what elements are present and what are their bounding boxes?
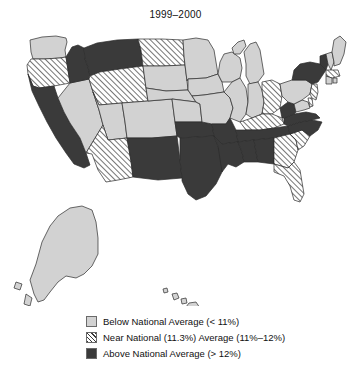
state-nm[interactable]: [127, 136, 182, 180]
state-wa[interactable]: [30, 36, 67, 59]
states-layer: [14, 36, 346, 306]
us-map-svg: [0, 26, 351, 306]
legend-label-near: Near National (11.3%) Average (11%–12%): [103, 332, 285, 343]
state-tx[interactable]: [180, 136, 224, 200]
state-wi[interactable]: [218, 52, 242, 82]
state-hi[interactable]: [163, 288, 200, 306]
state-sd[interactable]: [143, 65, 188, 91]
map-title: 1999–2000: [0, 9, 351, 20]
above-swatch-icon: [86, 348, 97, 359]
legend-item-below[interactable]: Below National Average (< 11%): [86, 313, 336, 329]
state-co[interactable]: [122, 99, 177, 138]
below-swatch-icon: [86, 316, 97, 327]
state-nd[interactable]: [138, 39, 185, 66]
map-legend: Below National Average (< 11%) Near Nati…: [86, 313, 336, 361]
state-me[interactable]: [332, 36, 346, 66]
state-ok[interactable]: [175, 122, 214, 138]
near-swatch-icon: [86, 332, 97, 343]
legend-item-near[interactable]: Near National (11.3%) Average (11%–12%): [86, 329, 336, 345]
state-or[interactable]: [27, 57, 70, 88]
legend-label-above: Above National Average (> 12%): [103, 348, 241, 359]
state-fl[interactable]: [274, 162, 304, 202]
legend-label-below: Below National Average (< 11%): [103, 316, 239, 327]
legend-item-above[interactable]: Above National Average (> 12%): [86, 345, 336, 361]
state-pa[interactable]: [280, 80, 312, 104]
map-area: [0, 26, 351, 306]
state-nj[interactable]: [310, 84, 318, 100]
state-mn[interactable]: [183, 38, 218, 81]
choropleth-map-figure: 1999–2000: [0, 0, 351, 383]
state-ak[interactable]: [14, 206, 98, 306]
state-ri[interactable]: [333, 78, 337, 83]
state-oh[interactable]: [262, 80, 282, 114]
state-in[interactable]: [246, 82, 264, 118]
